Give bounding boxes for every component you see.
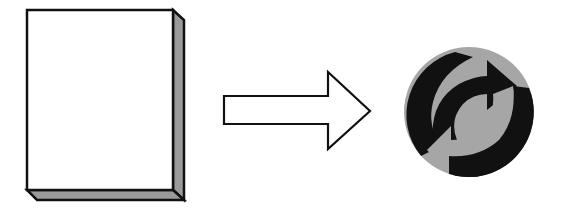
recycle-icon xyxy=(404,47,534,177)
arrow-right-icon xyxy=(224,72,370,149)
diagram-svg xyxy=(0,0,561,210)
diagram-canvas xyxy=(0,0,561,210)
paper-stack-icon xyxy=(27,10,184,200)
